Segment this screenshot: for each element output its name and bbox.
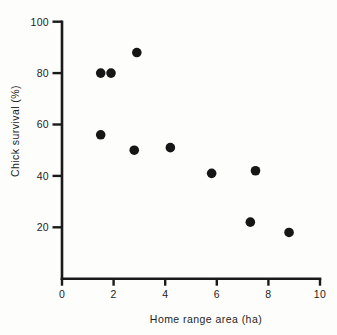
x-tick-label: 10	[314, 288, 326, 300]
x-tick-label: 6	[214, 288, 220, 300]
y-axis-label: Chick survival (%)	[9, 85, 21, 177]
scatter-point	[207, 169, 217, 179]
y-tick-label: 80	[37, 67, 49, 79]
scatter-point	[166, 143, 176, 153]
scatter-point	[96, 130, 106, 140]
y-tick-label: 20	[37, 221, 49, 233]
y-tick-label: 40	[37, 170, 49, 182]
y-tick-label: 100	[31, 16, 49, 28]
scatter-point	[106, 68, 116, 78]
scatter-figure: 204060801000246810 Chick survival (%) Ho…	[0, 0, 337, 335]
scatter-point	[251, 166, 261, 176]
scatter-point	[246, 217, 256, 227]
y-tick-label: 60	[37, 118, 49, 130]
x-axis-label: Home range area (ha)	[150, 313, 262, 325]
x-tick-label: 8	[265, 288, 271, 300]
data-points	[96, 48, 294, 238]
x-tick-label: 0	[59, 288, 65, 300]
tick-labels: 204060801000246810	[31, 16, 327, 301]
scatter-point	[132, 48, 142, 58]
chick-survival-scatter-chart: 204060801000246810 Chick survival (%) Ho…	[0, 0, 337, 335]
axis-ticks	[53, 22, 321, 286]
x-tick-label: 2	[111, 288, 117, 300]
scatter-point	[129, 145, 139, 155]
scatter-point	[284, 228, 294, 238]
axes	[61, 20, 322, 280]
x-tick-label: 4	[162, 288, 168, 300]
scatter-point	[96, 68, 106, 78]
